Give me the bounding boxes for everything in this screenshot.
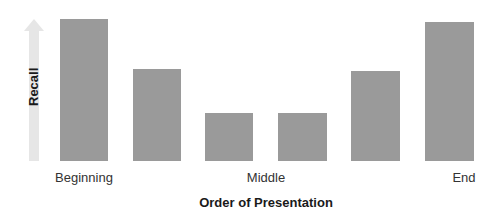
tick-label-end: End (452, 170, 475, 185)
x-axis-title: Order of Presentation (199, 195, 333, 209)
tick-label-middle: Middle (247, 170, 285, 185)
bar-1 (60, 19, 108, 161)
bar-4 (278, 113, 327, 161)
tick-label-beginning: Beginning (55, 170, 113, 185)
bar-3 (205, 113, 253, 161)
y-axis-label: Recall (24, 74, 44, 106)
bar-5 (351, 71, 400, 161)
bar-2 (133, 69, 181, 161)
bar-6 (425, 22, 474, 161)
